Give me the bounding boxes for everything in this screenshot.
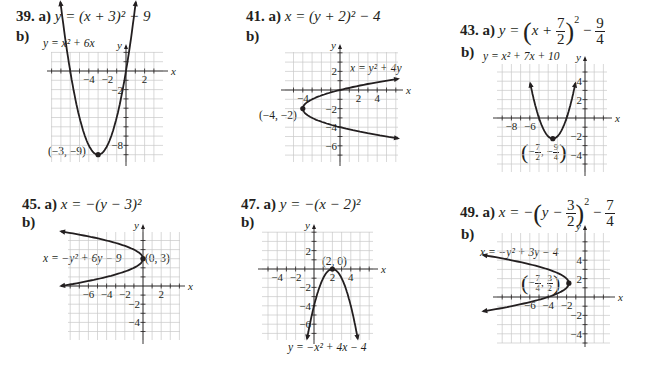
- graph-49: −6−4−242−2−4xy: [0, 0, 647, 366]
- x-axis-label: x: [617, 291, 623, 303]
- vertex-point: [566, 281, 571, 286]
- x-tick-label: −4: [542, 299, 554, 311]
- y-tick-label: −4: [570, 328, 582, 340]
- y-axis-label: y: [575, 220, 581, 232]
- arrowhead-icon: [481, 308, 487, 313]
- y-tick-label: 2: [577, 273, 583, 285]
- y-tick-label: 4: [577, 254, 583, 266]
- y-tick-label: −2: [570, 309, 582, 321]
- parabola-curve: [483, 255, 569, 311]
- arrowhead-icon: [481, 253, 487, 258]
